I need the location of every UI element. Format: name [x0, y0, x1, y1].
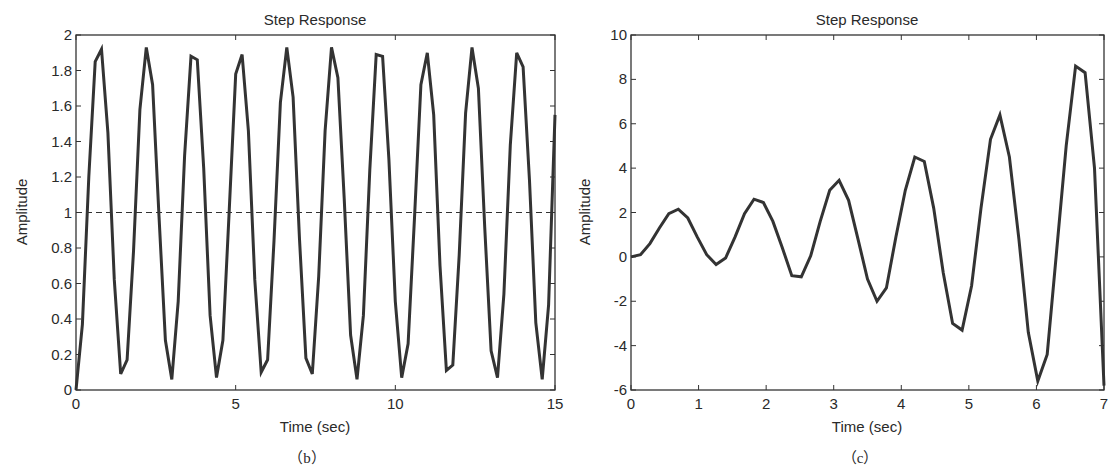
y-tick-label: 0.4: [51, 310, 72, 327]
x-axis-ticks: 051015: [72, 35, 564, 412]
y-tick-label: 0.6: [51, 275, 72, 292]
y-tick-label: -2: [614, 292, 627, 309]
y-tick-label: 8: [619, 70, 627, 87]
y-tick-label: 1.6: [51, 97, 72, 114]
y-tick-label: 4: [619, 159, 627, 176]
data-line: [631, 66, 1104, 386]
x-tick-label: 3: [830, 395, 838, 412]
y-tick-label: 10: [610, 26, 627, 43]
x-tick-label: 4: [897, 395, 905, 412]
x-tick-label: 7: [1100, 395, 1108, 412]
y-tick-label: -4: [614, 337, 627, 354]
x-axis-label: Time (sec): [832, 418, 902, 435]
x-tick-label: 15: [547, 395, 564, 412]
y-tick-label: 2: [619, 204, 627, 221]
y-tick-label: 1: [64, 204, 72, 221]
x-tick-label: 5: [231, 395, 239, 412]
y-tick-label: 1.4: [51, 133, 72, 150]
x-tick-label: 5: [965, 395, 973, 412]
figure-canvas: Step Response 00.20.40.60.811.21.41.61.8…: [0, 0, 1112, 471]
y-tick-label: 0.8: [51, 239, 72, 256]
y-tick-label: 2: [64, 26, 72, 43]
y-tick-label: -6: [614, 381, 627, 398]
x-tick-label: 0: [72, 395, 80, 412]
y-axis-label: Amplitude: [576, 179, 593, 246]
x-tick-label: 1: [694, 395, 702, 412]
figure-caption: （c）: [842, 450, 879, 466]
y-tick-label: 0: [619, 248, 627, 265]
x-tick-label: 2: [762, 395, 770, 412]
chart-title: Step Response: [264, 11, 367, 28]
x-axis-label: Time (sec): [280, 418, 350, 435]
data-line: [76, 47, 555, 390]
chart-b-step-response: Step Response 00.20.40.60.811.21.41.61.8…: [13, 11, 563, 466]
y-axis-label: Amplitude: [13, 179, 30, 246]
plot-frame: [631, 35, 1104, 390]
figure-caption: （b）: [288, 450, 326, 466]
x-tick-label: 0: [627, 395, 635, 412]
x-axis-ticks: 01234567: [627, 35, 1108, 412]
y-tick-label: 1.2: [51, 168, 72, 185]
y-tick-label: 6: [619, 115, 627, 132]
y-tick-label: 0.2: [51, 346, 72, 363]
x-tick-label: 10: [387, 395, 404, 412]
y-tick-label: 0: [64, 381, 72, 398]
x-tick-label: 6: [1032, 395, 1040, 412]
chart-title: Step Response: [816, 11, 919, 28]
y-tick-label: 1.8: [51, 62, 72, 79]
chart-c-step-response: Step Response -6-4-20246810 01234567 Amp…: [576, 11, 1108, 466]
